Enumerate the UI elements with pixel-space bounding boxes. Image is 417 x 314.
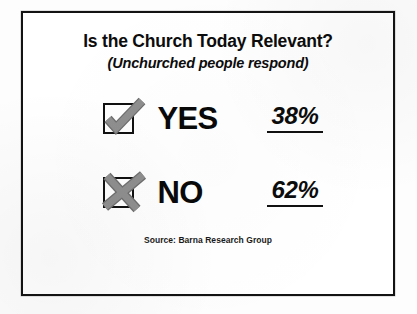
slide-content: Is the Church Today Relevant? (Unchurche… — [23, 13, 393, 294]
response-label-no: NO — [157, 177, 249, 208]
no-mark-cell — [97, 169, 149, 215]
yes-mark-cell — [97, 95, 149, 141]
x-mark-icon — [97, 169, 149, 215]
check-mark-icon — [97, 95, 149, 141]
page-title: Is the Church Today Relevant? — [83, 31, 333, 52]
response-label-yes: YES — [157, 103, 249, 134]
percent-value-yes: 38% — [271, 104, 318, 128]
page-subtitle: (Unchurched people respond) — [108, 55, 309, 71]
response-percent-no: 62% — [271, 178, 318, 207]
slide-border-frame: Is the Church Today Relevant? (Unchurche… — [21, 11, 395, 296]
response-list: YES 38% — [97, 95, 318, 215]
percent-value-no: 62% — [271, 178, 318, 202]
response-row-no: NO 62% — [97, 169, 318, 215]
response-row-yes: YES 38% — [97, 95, 318, 141]
source-credit: Source: Barna Research Group — [23, 235, 393, 245]
percent-underline-no — [267, 205, 322, 207]
response-percent-yes: 38% — [271, 104, 318, 133]
percent-underline-yes — [267, 131, 322, 133]
scanned-slide-page: Is the Church Today Relevant? (Unchurche… — [0, 0, 417, 314]
